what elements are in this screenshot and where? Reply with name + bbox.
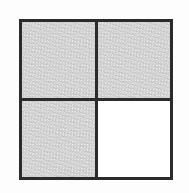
figure-canvas: 3/4 — [0, 0, 189, 193]
grid-cell-top-left — [22, 22, 95, 98]
grid-cell-bottom-left — [22, 101, 95, 177]
grid-cell-bottom-right — [98, 101, 171, 177]
shaded-grid-square — [19, 19, 173, 180]
grid-cell-top-right — [98, 22, 171, 98]
